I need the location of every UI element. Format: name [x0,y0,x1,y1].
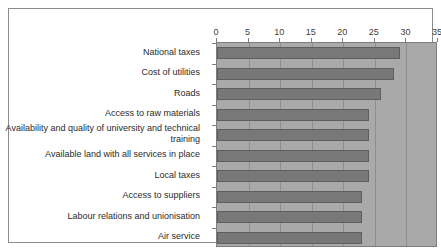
bar [217,170,369,182]
bar-row [217,191,437,203]
y-axis-tick-mark [212,125,216,126]
y-axis-category-label: Cost of utilities [0,67,200,78]
y-axis-tick-mark [212,43,216,44]
y-axis-tick-mark [212,105,216,106]
y-axis-tick-mark [212,207,216,208]
x-axis-tick-mark [216,38,217,42]
bar-row [217,47,437,59]
x-axis-tick-mark [279,38,280,42]
bar [217,47,400,59]
y-axis-category-label: Access to raw materials [0,108,200,119]
bar-row [217,211,437,223]
figure-frame: 05101520253035 National taxesCost of uti… [8,8,433,243]
bar [217,211,362,223]
y-axis-category-label: Roads [0,88,200,99]
x-axis-tick-mark [405,38,406,42]
bar-row [217,170,437,182]
y-axis-category-label: Air service [0,231,200,242]
y-axis-tick-mark [212,146,216,147]
y-axis-tick-mark [212,166,216,167]
bar [217,129,369,141]
y-axis-category-label: Labour relations and unionisation [0,211,200,222]
y-axis-category-label: Access to suppliers [0,190,200,201]
bar [217,150,369,162]
x-axis-tick-mark [248,38,249,42]
x-axis-tick-mark [342,38,343,42]
y-axis-tick-mark [212,64,216,65]
x-axis-tick-mark [311,38,312,42]
y-axis-category-label: Availability and quality of university a… [0,123,200,145]
bar-row [217,129,437,141]
plot-area [216,42,437,247]
chart-figure: 05101520253035 National taxesCost of uti… [0,0,441,251]
bar-row [217,109,437,121]
y-axis-category-label: National taxes [0,47,200,58]
bar [217,68,394,80]
x-axis-tick-mark [437,38,438,42]
y-axis-category-label: Local taxes [0,170,200,181]
y-axis-tick-mark [212,187,216,188]
bar-row [217,232,437,244]
bar-row [217,88,437,100]
bar [217,109,369,121]
y-axis-tick-mark [212,228,216,229]
bar-row [217,150,437,162]
bar [217,88,381,100]
bar [217,191,362,203]
bar [217,232,362,244]
x-axis-tick-mark [374,38,375,42]
y-axis-category-label: Available land with all services in plac… [0,149,200,160]
y-axis-tick-mark [212,84,216,85]
bar-row [217,68,437,80]
